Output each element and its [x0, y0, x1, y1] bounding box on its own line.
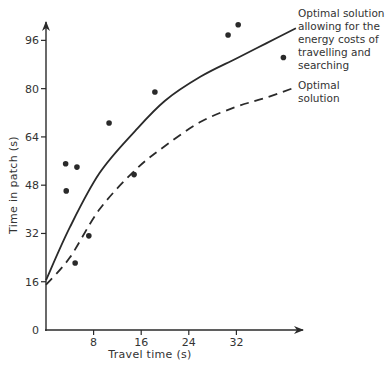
y-tick-label: 96: [25, 34, 39, 47]
y-tick-label: 64: [25, 131, 39, 144]
solid-curve-energy-costs: [46, 28, 296, 280]
y-tick-label: 48: [25, 179, 39, 192]
data-point: [131, 172, 137, 178]
legend-dashed: Optimal solution: [298, 79, 340, 104]
y-tick-label: 16: [25, 276, 39, 289]
legend-solid: Optimal solution allowing for the energy…: [298, 7, 384, 71]
data-points: [63, 22, 286, 266]
svg-text:solution: solution: [298, 92, 340, 104]
y-tick-label: 32: [25, 227, 39, 240]
svg-text:allowing for the: allowing for the: [298, 20, 380, 32]
data-point: [225, 32, 231, 38]
data-point: [72, 260, 78, 266]
svg-text:Optimal solution: Optimal solution: [298, 7, 384, 19]
data-point: [63, 188, 69, 194]
data-point: [152, 89, 158, 95]
data-point: [106, 120, 112, 126]
svg-text:Optimal: Optimal: [298, 79, 340, 91]
data-point: [281, 55, 287, 61]
y-axis-label: Time in patch (s): [7, 136, 20, 235]
x-tick-label: 32: [229, 336, 243, 349]
svg-text:travelling and: travelling and: [298, 46, 371, 58]
x-ticks: 8162432: [90, 330, 243, 349]
y-tick-label: 80: [25, 83, 39, 96]
data-point: [74, 164, 80, 170]
data-point: [235, 22, 241, 28]
data-point: [63, 161, 69, 167]
y-tick-label: 0: [32, 324, 39, 337]
x-axis-label: Travel time (s): [107, 348, 191, 361]
data-point: [86, 233, 92, 239]
svg-text:energy costs of: energy costs of: [298, 33, 379, 45]
y-ticks: 0163248648096: [25, 34, 46, 337]
chart: 0163248648096 8162432 Travel time (s) Ti…: [0, 0, 389, 370]
x-tick-label: 8: [90, 336, 97, 349]
svg-text:searching: searching: [298, 59, 349, 71]
dashed-curve-optimal: [46, 87, 296, 285]
